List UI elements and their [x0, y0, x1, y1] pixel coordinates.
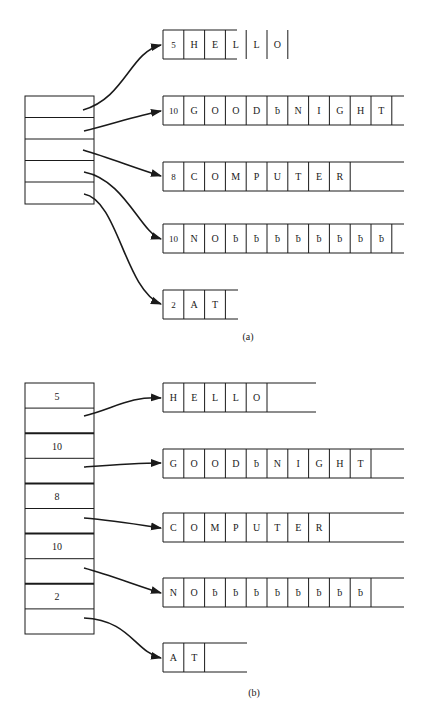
- char-cell: E: [191, 392, 197, 403]
- string-row-a-4: 10NOƀƀƀƀƀƀƀƀ: [163, 224, 404, 253]
- arrow-b-1: [84, 398, 161, 416]
- blank-cell: ƀ: [232, 233, 238, 244]
- arrow-a-2: [84, 111, 161, 131]
- length-cell: 2: [171, 300, 176, 310]
- char-cell: T: [295, 171, 301, 182]
- arrow-b-2: [84, 463, 161, 467]
- descriptor-4: 10: [25, 534, 94, 583]
- descriptor-pointer-field: [26, 459, 93, 482]
- descriptor-2: 10: [25, 433, 94, 482]
- caption-a: (a): [242, 331, 253, 343]
- blank-cell: ƀ: [378, 233, 384, 244]
- blank-cell: ƀ: [336, 233, 342, 244]
- char-cell: E: [295, 522, 301, 533]
- char-cell: N: [191, 233, 198, 244]
- descriptor-length: 2: [55, 591, 60, 602]
- descriptor-length: 10: [52, 541, 62, 552]
- arrow-b-5: [84, 618, 161, 658]
- char-cell: N: [170, 587, 177, 598]
- char-cell: M: [231, 171, 240, 182]
- char-cell: O: [211, 171, 218, 182]
- char-cell: O: [253, 392, 260, 403]
- descriptor-pointer-field: [26, 409, 93, 432]
- char-cell: E: [316, 171, 322, 182]
- char-cell: T: [191, 652, 197, 663]
- char-cell: L: [233, 392, 239, 403]
- string-row-a-3: 8COMPUTER: [163, 162, 404, 191]
- string-rows-b: HELLOGOODƀNIGHTCOMPUTERNOƀƀƀƀƀƀƀƀAT: [163, 383, 404, 672]
- descriptor-length: 10: [52, 441, 62, 452]
- char-cell: O: [211, 458, 218, 469]
- char-cell: A: [170, 652, 178, 663]
- blank-cell: ƀ: [295, 587, 301, 598]
- blank-cell: ƀ: [295, 233, 301, 244]
- char-cell: L: [212, 392, 218, 403]
- string-row-b-5: AT: [163, 643, 247, 672]
- blank-cell: ƀ: [253, 587, 259, 598]
- char-cell: N: [274, 458, 281, 469]
- char-cell: E: [212, 39, 218, 50]
- length-cell: 5: [171, 40, 176, 50]
- descriptor-3: 8: [25, 483, 94, 532]
- char-cell: R: [336, 171, 343, 182]
- char-cell: I: [317, 105, 320, 116]
- string-row-b-2: GOODƀNIGHT: [163, 449, 404, 478]
- char-cell: G: [315, 458, 322, 469]
- string-row-b-3: COMPUTER: [163, 513, 404, 542]
- char-cell: O: [232, 105, 239, 116]
- blank-cell: ƀ: [212, 587, 218, 598]
- char-cell: G: [191, 105, 198, 116]
- arrows-a: [83, 45, 161, 304]
- descriptor-pointer-field: [26, 610, 93, 633]
- string-rows-a: 5HELLO10GOODƀNIGHT8COMPUTER10NOƀƀƀƀƀƀƀƀ2…: [163, 30, 404, 319]
- string-row-a-1: 5HELLO: [163, 30, 288, 59]
- part-a: 5HELLO10GOODƀNIGHT8COMPUTER10NOƀƀƀƀƀƀƀƀ2…: [25, 30, 404, 343]
- char-cell: O: [191, 458, 198, 469]
- char-cell: L: [233, 39, 239, 50]
- char-cell: O: [211, 233, 218, 244]
- char-cell: U: [274, 171, 282, 182]
- char-cell: A: [191, 299, 199, 310]
- string-row-b-1: HELLO: [163, 383, 316, 412]
- descriptor-length: 5: [55, 391, 60, 402]
- descriptor-5: 2: [25, 584, 94, 633]
- char-cell: T: [212, 299, 218, 310]
- string-storage-diagram: 5HELLO10GOODƀNIGHT8COMPUTER10NOƀƀƀƀƀƀƀƀ2…: [0, 0, 424, 724]
- descriptor-pointer-field: [26, 560, 93, 583]
- blank-cell: ƀ: [357, 587, 363, 598]
- char-cell: H: [191, 39, 198, 50]
- char-cell: D: [253, 105, 260, 116]
- char-cell: C: [191, 171, 198, 182]
- string-row-a-5: 2AT: [163, 290, 238, 319]
- arrow-a-1: [83, 45, 161, 110]
- char-cell: D: [232, 458, 239, 469]
- length-cell: 10: [169, 234, 179, 244]
- char-cell: M: [211, 522, 220, 533]
- descriptor-1: 5: [25, 391, 94, 433]
- char-cell: O: [274, 39, 281, 50]
- char-cell: I: [297, 458, 300, 469]
- blank-cell: ƀ: [316, 587, 322, 598]
- blank-cell: ƀ: [232, 587, 238, 598]
- string-row-a-2: 10GOODƀNIGHT: [163, 96, 404, 125]
- arrows-b: [84, 398, 161, 658]
- char-cell: P: [233, 522, 239, 533]
- char-cell: O: [211, 105, 218, 116]
- char-cell: H: [336, 458, 343, 469]
- char-cell: G: [170, 458, 177, 469]
- caption-b: (b): [248, 687, 260, 699]
- char-cell: G: [336, 105, 343, 116]
- char-cell: O: [191, 522, 198, 533]
- char-cell: C: [170, 522, 177, 533]
- length-cell: 10: [169, 106, 179, 116]
- arrow-a-3: [83, 150, 161, 176]
- char-cell: T: [274, 522, 280, 533]
- arrow-b-3: [84, 518, 161, 528]
- descriptor-length: 8: [55, 491, 60, 502]
- blank-cell: ƀ: [253, 233, 259, 244]
- part-b: 5108102 HELLOGOODƀNIGHTCOMPUTERNOƀƀƀƀƀƀƀ…: [25, 383, 404, 699]
- blank-cell: ƀ: [274, 587, 280, 598]
- descriptor-array-b: 5108102: [25, 383, 94, 634]
- char-cell: T: [358, 458, 364, 469]
- blank-cell: ƀ: [253, 458, 259, 469]
